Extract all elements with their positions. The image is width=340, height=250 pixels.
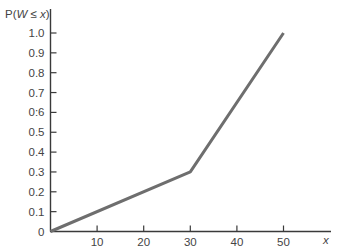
y-ticks: 00.10.20.30.40.50:60.70.80.91.0 (29, 27, 57, 238)
y-tick-label: 0.8 (29, 67, 45, 79)
x-tick-label: 20 (137, 236, 150, 248)
y-tick-label: 0:6 (29, 106, 45, 118)
y-tick-label: 0.2 (29, 186, 45, 198)
y-tick-label: 0.3 (29, 166, 45, 178)
y-tick-label: 0.5 (29, 126, 45, 138)
x-ticks: 1020304050 (91, 226, 290, 248)
y-tick-label: 0.7 (29, 87, 45, 99)
cdf-chart: 00.10.20.30.40.50:60.70.80.91.0 10203040… (0, 0, 340, 250)
y-tick-label: 0.4 (29, 146, 46, 158)
x-tick-label: 50 (277, 236, 290, 248)
x-axis-title: x (322, 234, 330, 246)
x-tick-label: 10 (91, 236, 104, 248)
cdf-line (51, 33, 284, 232)
y-tick-label: 0.1 (29, 206, 45, 218)
y-axis-title: P(W ≤ x) (5, 8, 50, 20)
x-tick-label: 40 (231, 236, 244, 248)
y-tick-label: 1.0 (29, 27, 45, 39)
y-tick-label: 0 (38, 226, 44, 238)
x-tick-label: 30 (184, 236, 197, 248)
y-tick-label: 0.9 (29, 47, 45, 59)
